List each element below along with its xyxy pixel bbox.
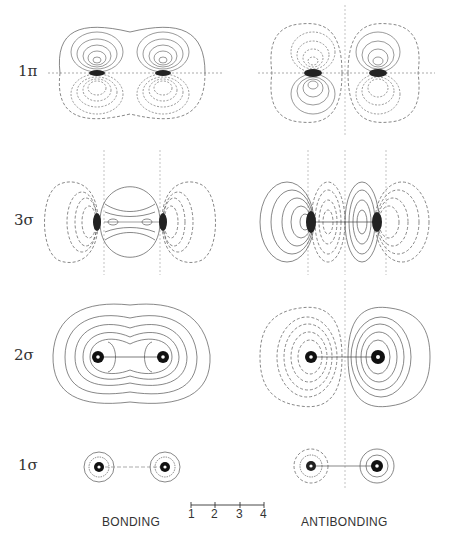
scale-tick-4: 4	[260, 507, 267, 521]
mo-contour-figure: 1π 3σ 2σ 1σ	[0, 0, 450, 538]
plot-1pi-bonding	[48, 27, 222, 118]
column-label-bonding: BONDING	[102, 515, 160, 529]
plot-3sigma-antibonding	[260, 150, 429, 275]
plot-1sigma-antibonding	[294, 410, 394, 490]
column-label-antibonding: ANTIBONDING	[301, 515, 388, 529]
scale-bar	[191, 502, 264, 508]
plot-2sigma-antibonding	[260, 280, 430, 410]
plot-1pi-antibonding	[258, 5, 435, 135]
plot-1sigma-bonding	[84, 452, 180, 482]
scale-tick-3: 3	[236, 507, 243, 521]
contour-plots	[0, 0, 450, 538]
plot-3sigma-bonding	[45, 150, 216, 275]
scale-tick-1: 1	[188, 507, 195, 521]
plot-2sigma-bonding	[53, 304, 210, 403]
scale-tick-2: 2	[211, 507, 218, 521]
